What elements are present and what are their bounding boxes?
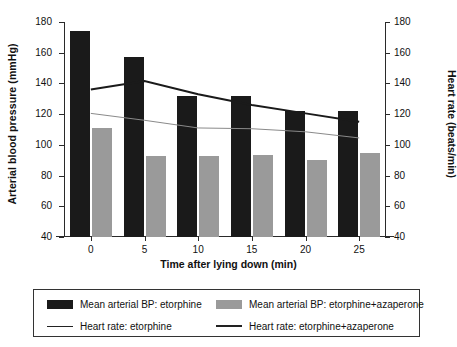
axis-tick [59, 237, 64, 238]
x-axis-tick-label: 20 [286, 244, 326, 255]
axis-tick-label: 40 [12, 232, 52, 242]
axis-tick-label: 80 [12, 171, 52, 181]
axis-tick-label: 40 [394, 232, 434, 242]
plot-area: 180160140120100806040 180160140120100806… [64, 22, 386, 237]
line-series [91, 113, 359, 138]
chart-legend: Mean arterial BP: etorphine Mean arteria… [33, 289, 420, 337]
axis-tick-label: 100 [12, 140, 52, 150]
axis-tick-label: 80 [394, 171, 434, 181]
line-series [91, 81, 359, 122]
x-axis-tick-label: 5 [125, 244, 165, 255]
axis-tick-label: 60 [12, 201, 52, 211]
line-series-group [64, 22, 386, 237]
axis-tick-label: 160 [12, 48, 52, 58]
legend-label-2: Heart rate: etorphine [80, 321, 172, 332]
axis-tick-label: 120 [12, 109, 52, 119]
axis-tick-label: 140 [12, 78, 52, 88]
axis-tick [385, 237, 390, 238]
axis-tick-label: 160 [394, 48, 434, 58]
axis-tick-label: 180 [12, 17, 52, 27]
legend-label-1: Mean arterial BP: etorphine+azaperone [249, 299, 424, 310]
x-axis-tick-label: 25 [339, 244, 379, 255]
x-axis-tick-label: 10 [178, 244, 218, 255]
legend-item-bp-etorphine-azaperone: Mean arterial BP: etorphine+azaperone [216, 293, 424, 315]
legend-item-hr-etorphine-azaperone: Heart rate: etorphine+azaperone [216, 315, 394, 337]
axis-tick-label: 180 [394, 17, 434, 27]
legend-label-0: Mean arterial BP: etorphine [80, 299, 202, 310]
axis-tick-label: 140 [394, 78, 434, 88]
legend-item-bp-etorphine: Mean arterial BP: etorphine [47, 293, 202, 315]
legend-swatch-gray-bar-icon [216, 300, 242, 309]
axis-tick-label: 60 [394, 201, 434, 211]
chart-figure: Arterial blood pressure (mmHg) Heart rat… [0, 0, 457, 347]
axis-tick-label: 100 [394, 140, 434, 150]
legend-swatch-dark-bar-icon [47, 300, 73, 309]
legend-swatch-thick-line-icon [216, 325, 242, 327]
legend-swatch-thin-line-icon [47, 326, 73, 327]
legend-label-3: Heart rate: etorphine+azaperone [249, 321, 394, 332]
legend-item-hr-etorphine: Heart rate: etorphine [47, 315, 172, 337]
x-axis-title: Time after lying down (min) [0, 258, 457, 270]
x-axis-tick-label: 15 [232, 244, 272, 255]
x-axis-tick-label: 0 [71, 244, 111, 255]
axis-tick-label: 120 [394, 109, 434, 119]
y-axis-right-title: Heart rate (beats/min) [446, 24, 457, 224]
